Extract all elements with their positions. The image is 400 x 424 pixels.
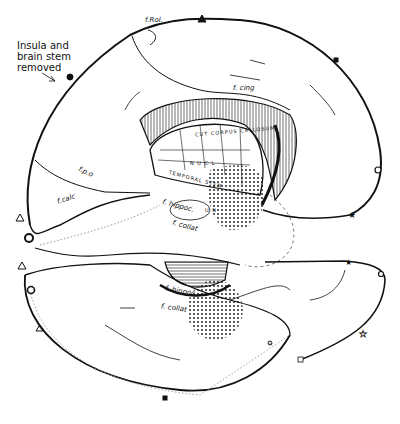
label-f-cing: f. cing bbox=[233, 84, 254, 92]
star-marker: ★ bbox=[348, 210, 356, 220]
stippled-region-upper bbox=[208, 165, 265, 230]
annotation-insula: Insula and brain stem removed bbox=[17, 40, 71, 73]
svg-text:★: ★ bbox=[345, 258, 352, 267]
label-g: G bbox=[268, 340, 273, 346]
open-star-marker bbox=[25, 234, 33, 242]
open-triangle-marker bbox=[16, 214, 24, 221]
annotation-arrow bbox=[42, 73, 55, 81]
open-circle-marker bbox=[375, 167, 381, 173]
label-f-rol: f.Rol. bbox=[145, 16, 163, 24]
svg-text:★: ★ bbox=[359, 329, 367, 339]
label-nucl: N U C L bbox=[190, 160, 215, 166]
filled-square-marker bbox=[334, 58, 338, 62]
filled-circle-marker bbox=[67, 74, 73, 80]
label-un: U N bbox=[205, 207, 217, 213]
